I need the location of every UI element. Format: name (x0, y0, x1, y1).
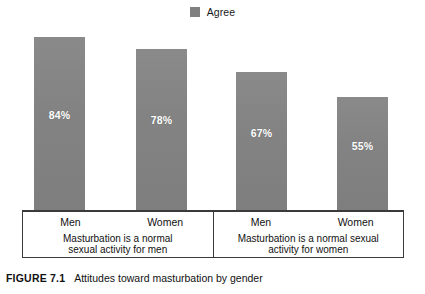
figure-caption: FIGURE 7.1Attitudes toward masturbation … (6, 272, 418, 285)
bar-value-group1-women: 78% (136, 114, 187, 126)
bar-value-group2-men: 67% (236, 127, 287, 139)
bar-group1-men (34, 37, 85, 212)
category-label-group2-women: Women (308, 216, 403, 228)
figure-title: Attitudes toward masturbation by gender (74, 272, 263, 284)
category-table: Men Women Masturbation is a normal sexua… (22, 211, 404, 258)
figure-number: FIGURE 7.1 (6, 272, 65, 284)
figure-container: Agree 84% 78% 67% 55% Men Women (0, 0, 425, 294)
bar-value-group2-women: 55% (337, 140, 388, 152)
category-label-group1-women: Women (118, 216, 213, 228)
chart-plot-area: 84% 78% 67% 55% (0, 20, 425, 212)
category-group-2: Men Women Masturbation is a normal sexua… (213, 212, 404, 257)
bar-group2-women (337, 97, 388, 212)
legend-label-agree: Agree (207, 7, 236, 18)
bar-group1-women (136, 49, 187, 212)
legend-swatch-agree (190, 7, 200, 17)
chart-legend: Agree (0, 4, 425, 20)
bar-group2-men (236, 72, 287, 212)
category-group-1: Men Women Masturbation is a normal sexua… (23, 212, 213, 257)
bar-value-group1-men: 84% (34, 109, 85, 121)
category-group-1-caption-line2: sexual activity for men (63, 244, 173, 256)
category-group-1-caption-line1: Masturbation is a normal (63, 233, 173, 245)
category-label-group1-men: Men (23, 216, 118, 228)
category-group-2-genders: Men Women (214, 212, 404, 231)
category-label-group2-men: Men (214, 216, 309, 228)
category-group-2-caption-line2: activity for women (238, 244, 379, 256)
category-group-1-genders: Men Women (23, 212, 213, 231)
category-group-1-caption: Masturbation is a normal sexual activity… (23, 231, 213, 257)
category-group-2-caption: Masturbation is a normal sexual activity… (214, 231, 404, 257)
category-group-2-caption-line1: Masturbation is a normal sexual (238, 233, 379, 245)
